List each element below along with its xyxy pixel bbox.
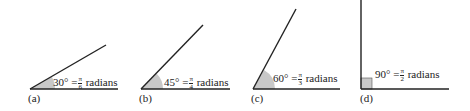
angle-label-b: 45° =π4 radians: [164, 76, 228, 91]
equals: =: [71, 76, 77, 88]
caption-d: (d): [360, 93, 373, 104]
equals: =: [393, 68, 399, 80]
denominator: 4: [189, 84, 193, 91]
degrees: 45°: [164, 76, 179, 88]
angle-arc-shade: [253, 70, 275, 89]
unit: radians: [306, 72, 338, 84]
fraction: π6: [78, 76, 82, 91]
denominator: 3: [298, 80, 302, 87]
denominator: 6: [78, 84, 82, 91]
caption-b: (b): [139, 93, 152, 104]
angle-label-d: 90° =π2 radians: [375, 68, 439, 83]
caption-c: (c): [251, 93, 263, 104]
angle-label-c: 60° =π3 radians: [273, 72, 337, 87]
fraction: π3: [298, 72, 302, 87]
unit: radians: [197, 76, 229, 88]
denominator: 2: [400, 76, 404, 83]
degrees: 60°: [273, 72, 288, 84]
degrees: 90°: [375, 68, 390, 80]
angle-label-a: 30° =π6 radians: [53, 76, 117, 91]
angles-diagram: [0, 0, 470, 111]
fraction: π4: [189, 76, 193, 91]
fraction: π2: [400, 68, 404, 83]
equals: =: [182, 76, 188, 88]
caption-a: (a): [28, 93, 40, 104]
unit: radians: [408, 68, 440, 80]
unit: radians: [86, 76, 118, 88]
right-angle-marker: [361, 78, 372, 89]
angle-arc-shade: [141, 73, 163, 89]
equals: =: [291, 72, 297, 84]
degrees: 30°: [53, 76, 68, 88]
